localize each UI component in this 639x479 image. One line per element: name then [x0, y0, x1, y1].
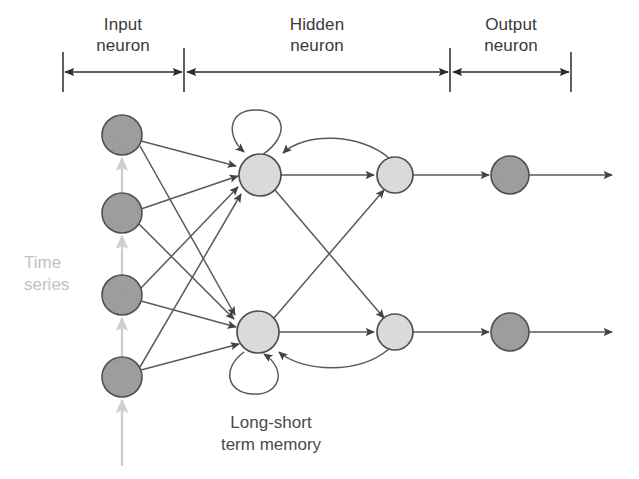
diagram-canvas [0, 0, 639, 479]
edge-in3-lstm2 [141, 301, 236, 327]
edge-in4-lstm1 [140, 194, 241, 367]
hidden-crossbar-edges [274, 175, 384, 332]
input-neuron-1[interactable] [102, 115, 142, 155]
section-label-output: Output neuron [436, 14, 586, 56]
edge-feedback-ctx1-lstm1 [283, 138, 389, 158]
output-terminal-edges [529, 175, 612, 332]
edge-in2-lstm1 [141, 176, 238, 209]
hidden-context-neuron-group [377, 157, 413, 350]
edge-in1-lstm2 [140, 146, 235, 315]
edge-in1-lstm1 [141, 141, 236, 166]
lstm-neuron-1[interactable] [239, 154, 281, 196]
self-loop-lstm1-icon [232, 110, 281, 155]
input-neuron-2[interactable] [102, 193, 142, 233]
edge-in4-lstm2 [141, 344, 239, 370]
lstm-neuron-2[interactable] [237, 311, 279, 353]
section-label-hidden: Hidden neuron [242, 14, 392, 56]
memory-caption-label: Long-short term memory [171, 412, 371, 456]
edge-in3-lstm1 [141, 187, 238, 288]
section-label-input: Input neuron [48, 14, 198, 56]
context-feedback-edges [279, 138, 389, 368]
hidden-memory-neuron-group [237, 154, 281, 353]
edge-feedback-ctx2-lstm2 [279, 349, 389, 368]
output-neuron-2[interactable] [491, 313, 529, 351]
self-loop-lstm2-icon [230, 352, 278, 394]
context-neuron-1[interactable] [377, 157, 413, 193]
input-neuron-4[interactable] [102, 357, 142, 397]
context-to-output-edges [413, 175, 489, 332]
output-neuron-1[interactable] [491, 156, 529, 194]
output-neuron-group [491, 156, 529, 351]
input-to-hidden-edges [139, 141, 241, 370]
time-series-label: Time series [24, 252, 124, 296]
lstm-network-diagram: Input neuron Hidden neuron Output neuron… [0, 0, 639, 479]
context-neuron-2[interactable] [377, 314, 413, 350]
